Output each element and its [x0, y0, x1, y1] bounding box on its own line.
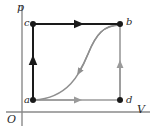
state-point-d [117, 97, 123, 103]
state-point-c [30, 21, 36, 27]
state-label-b: b [126, 17, 132, 27]
dark-path-group [33, 24, 120, 100]
state-label-a: a [24, 95, 30, 105]
pv-diagram-figure: p V O a b c d [0, 0, 153, 132]
state-point-b [117, 21, 123, 27]
curve-path-group [34, 25, 120, 100]
state-label-c: c [24, 18, 30, 28]
state-label-d: d [126, 95, 132, 105]
path-b-to-a-curve [34, 25, 120, 100]
state-point-a [30, 97, 36, 103]
pressure-axis-label: p [17, 2, 24, 13]
light-path-group [33, 24, 120, 100]
volume-axis-label: V [137, 104, 145, 115]
state-point-group [30, 21, 123, 103]
path-b-to-a-arrow [79, 25, 120, 72]
origin-label: O [7, 114, 16, 125]
